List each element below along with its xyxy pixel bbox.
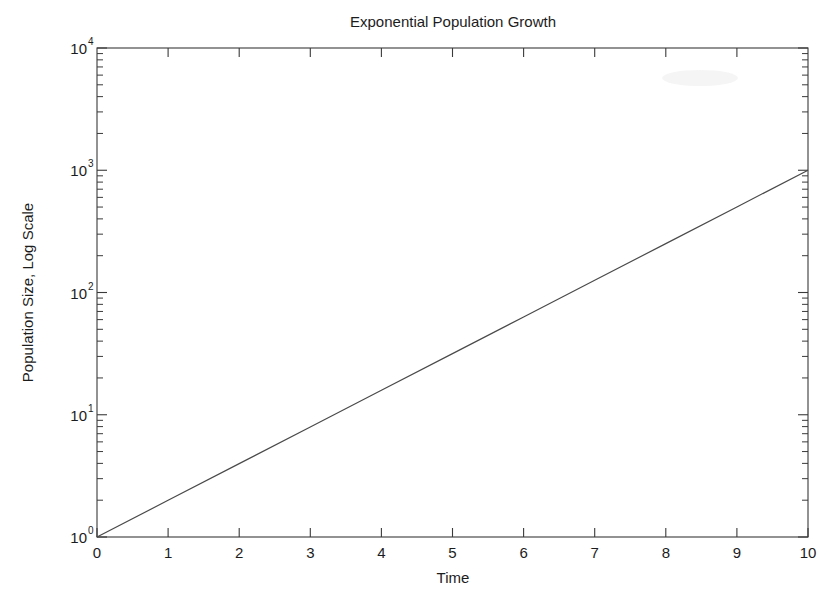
- x-tick-label: 3: [306, 544, 314, 561]
- chart-svg: Exponential Population Growth: [0, 0, 836, 599]
- y-tick-mantissa: 10: [70, 162, 87, 179]
- y-tick-mantissa: 10: [70, 40, 87, 57]
- y-tick-mantissa: 10: [70, 407, 87, 424]
- x-tick-label: 8: [662, 544, 670, 561]
- x-tick-label: 4: [377, 544, 385, 561]
- x-tick-label: 6: [519, 544, 527, 561]
- y-tick-label-1: 10 1: [70, 403, 94, 424]
- x-tick-label: 10: [800, 544, 817, 561]
- x-tick-label: 0: [93, 544, 101, 561]
- x-tick-label: 5: [448, 544, 456, 561]
- figure-canvas: Exponential Population Growth: [0, 0, 836, 599]
- data-series-population: [97, 170, 808, 537]
- x-tick-label: 2: [235, 544, 243, 561]
- y-tick-mantissa: 10: [70, 529, 87, 546]
- x-axis-ticks: [97, 48, 808, 537]
- chart-title: Exponential Population Growth: [350, 13, 556, 30]
- y-tick-label-3: 10 3: [70, 158, 94, 179]
- x-axis-tick-labels: 0 1 2 3 4 5 6 7 8 9 10: [93, 544, 817, 561]
- y-tick-exponent: 4: [88, 36, 94, 47]
- y-tick-exponent: 3: [88, 158, 94, 169]
- y-tick-label-0: 10 0: [70, 525, 94, 546]
- y-axis-tick-labels: 10 0 10 1 10 2 10 3 10 4: [70, 36, 94, 546]
- y-tick-exponent: 1: [88, 403, 94, 414]
- y-tick-exponent: 2: [88, 281, 94, 292]
- axes-frame: [97, 48, 808, 537]
- y-tick-exponent: 0: [88, 525, 94, 536]
- y-axis-major-ticks: [97, 48, 808, 537]
- y-axis-label: Population Size, Log Scale: [19, 203, 36, 382]
- y-axis-minor-ticks: [97, 54, 808, 501]
- x-axis-label: Time: [437, 569, 470, 586]
- y-tick-label-4: 10 4: [70, 36, 94, 57]
- x-tick-label: 9: [733, 544, 741, 561]
- scan-artifact: [662, 70, 738, 86]
- y-tick-mantissa: 10: [70, 285, 87, 302]
- y-tick-label-2: 10 2: [70, 281, 94, 302]
- x-tick-label: 1: [164, 544, 172, 561]
- x-tick-label: 7: [591, 544, 599, 561]
